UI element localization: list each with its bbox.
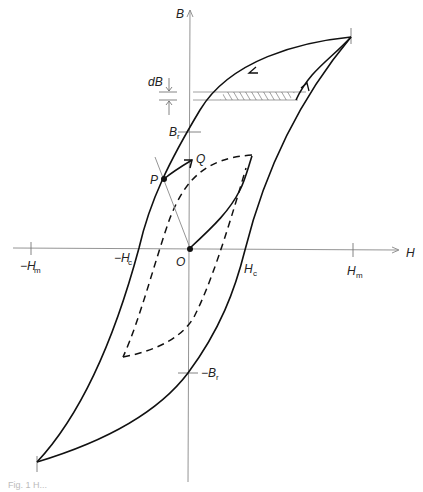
svg-text:B: B xyxy=(169,125,177,139)
tick-label-hc: H c xyxy=(244,262,257,278)
tick-label-neg-hm: −H m xyxy=(20,259,41,275)
tick-label-neg-br: −B r xyxy=(201,366,219,382)
tick-label-neg-hc: −H c xyxy=(114,251,132,267)
tick-label-hm: H m xyxy=(347,264,363,280)
point-p xyxy=(161,176,167,182)
point-o xyxy=(187,246,193,252)
x-axis-label: H xyxy=(406,246,415,260)
svg-text:−B: −B xyxy=(201,366,216,380)
point-p-label: P xyxy=(150,173,158,187)
svg-text:H: H xyxy=(244,262,253,276)
origin-label: O xyxy=(176,255,185,269)
hysteresis-diagram: B H O P Q dB −H m −H c H c H m B r −B r xyxy=(0,0,423,492)
load-line xyxy=(155,157,190,248)
minor-loop xyxy=(123,155,252,357)
svg-text:m: m xyxy=(34,266,41,275)
x-axis xyxy=(13,247,399,253)
svg-text:H: H xyxy=(347,264,356,278)
direction-arrows xyxy=(249,67,309,91)
svg-text:r: r xyxy=(216,373,219,382)
dB-label: dB xyxy=(148,75,163,89)
figure-caption: Fig. 1 H... xyxy=(8,480,47,490)
arrow-left-icon xyxy=(249,67,258,73)
svg-text:c: c xyxy=(253,269,257,278)
point-q-label: Q xyxy=(196,152,205,166)
tick-label-br: B r xyxy=(169,125,180,141)
svg-text:c: c xyxy=(128,258,132,267)
initial-curve xyxy=(190,156,252,248)
y-axis-label: B xyxy=(176,7,184,21)
svg-text:r: r xyxy=(177,132,180,141)
svg-text:m: m xyxy=(356,271,363,280)
recoil-path xyxy=(164,160,192,179)
